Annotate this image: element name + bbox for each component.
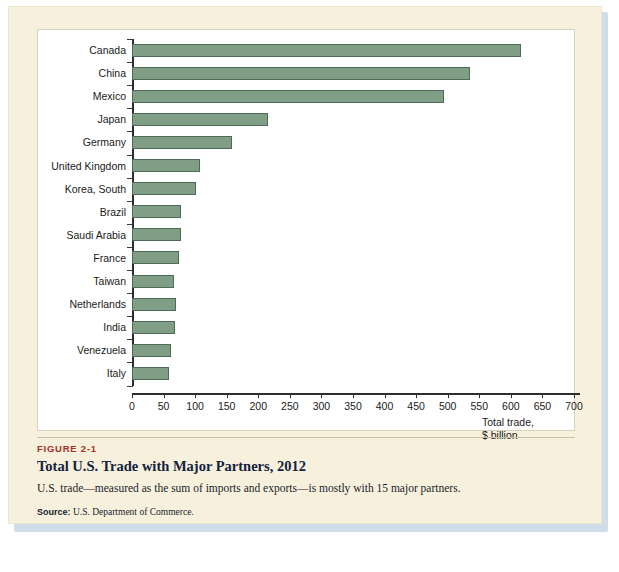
bar-saudi-arabia xyxy=(132,228,181,241)
category-label: China xyxy=(38,65,126,81)
category-label: United Kingdom xyxy=(38,158,126,174)
y-axis-tick xyxy=(127,108,133,109)
bar-korea-south xyxy=(132,182,196,195)
bar-japan xyxy=(132,113,268,126)
x-axis-title-line: Total trade, xyxy=(482,416,566,429)
figure-number: FIGURE 2-1 xyxy=(37,443,575,454)
source-label: Source: xyxy=(37,507,71,517)
category-label: India xyxy=(38,319,126,335)
x-axis-tick xyxy=(321,393,322,398)
x-axis-tick xyxy=(353,393,354,398)
figure-description: U.S. trade—measured as the sum of import… xyxy=(37,481,575,497)
bar-china xyxy=(132,67,470,80)
x-axis-tick-label: 700 xyxy=(554,400,594,412)
bar-united-kingdom xyxy=(132,159,200,172)
figure-title: Total U.S. Trade with Major Partners, 20… xyxy=(37,458,575,475)
x-axis-tick xyxy=(385,393,386,398)
x-axis-tick xyxy=(574,393,575,398)
bar-italy xyxy=(132,367,169,380)
x-axis-tick xyxy=(511,393,512,398)
bar-brazil xyxy=(132,205,181,218)
y-axis-tick xyxy=(127,339,133,340)
bar-netherlands xyxy=(132,298,176,311)
x-axis-tick xyxy=(448,393,449,398)
figure-caption: FIGURE 2-1 Total U.S. Trade with Major P… xyxy=(37,443,575,517)
y-axis-tick xyxy=(127,386,133,387)
figure-source: Source: U.S. Department of Commerce. xyxy=(37,507,575,517)
caption-divider xyxy=(37,437,575,438)
x-axis-tick xyxy=(132,393,133,398)
y-axis-tick xyxy=(127,247,133,248)
category-label: Japan xyxy=(38,111,126,127)
bar-taiwan xyxy=(132,275,174,288)
bar-france xyxy=(132,251,179,264)
category-label: Netherlands xyxy=(38,296,126,312)
source-text: U.S. Department of Commerce. xyxy=(73,507,194,517)
y-axis-tick xyxy=(127,85,133,86)
category-label: Saudi Arabia xyxy=(38,227,126,243)
y-axis-tick xyxy=(127,224,133,225)
bar-germany xyxy=(132,136,232,149)
x-axis-tick xyxy=(479,393,480,398)
x-axis-tick xyxy=(542,393,543,398)
category-label: Taiwan xyxy=(38,273,126,289)
category-label: Mexico xyxy=(38,88,126,104)
x-axis-tick xyxy=(258,393,259,398)
y-axis-tick xyxy=(127,155,133,156)
category-label: Italy xyxy=(38,365,126,381)
figure-container: 0501001502002503003504004505005506006507… xyxy=(8,6,602,524)
category-label: Germany xyxy=(38,134,126,150)
x-axis-title: Total trade,$ billion xyxy=(482,416,566,442)
y-axis-tick xyxy=(127,178,133,179)
y-axis-tick xyxy=(127,201,133,202)
category-label: Korea, South xyxy=(38,181,126,197)
y-axis-tick xyxy=(127,293,133,294)
bar-mexico xyxy=(132,90,444,103)
bar-canada xyxy=(132,44,521,57)
y-axis-tick xyxy=(127,62,133,63)
x-axis-tick xyxy=(164,393,165,398)
chart-panel: 0501001502002503003504004505005506006507… xyxy=(37,29,575,431)
category-label: Venezuela xyxy=(38,342,126,358)
x-axis-tick xyxy=(195,393,196,398)
bar-venezuela xyxy=(132,344,171,357)
y-axis-tick xyxy=(127,131,133,132)
y-axis-tick xyxy=(127,316,133,317)
y-axis-tick xyxy=(127,270,133,271)
plot-area: 0501001502002503003504004505005506006507… xyxy=(38,30,574,430)
y-axis-tick xyxy=(127,362,133,363)
category-label: France xyxy=(38,250,126,266)
y-axis-tick xyxy=(127,39,133,40)
x-axis-line xyxy=(132,393,580,395)
category-label: Canada xyxy=(38,42,126,58)
x-axis-title-line: $ billion xyxy=(482,429,566,442)
bar-india xyxy=(132,321,175,334)
x-axis-tick xyxy=(290,393,291,398)
category-label: Brazil xyxy=(38,204,126,220)
x-axis-tick xyxy=(227,393,228,398)
x-axis-tick xyxy=(416,393,417,398)
